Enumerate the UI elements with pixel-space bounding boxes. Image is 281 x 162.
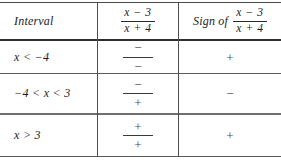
row-result-sign-cell: + <box>179 41 281 73</box>
row-result-sign: − <box>226 87 233 100</box>
header-interval-label: Interval <box>14 14 54 29</box>
header-sign-of-label: Sign of <box>193 14 228 29</box>
row-sign-fraction: − + <box>123 79 153 108</box>
row-sign-denominator: − <box>134 61 141 72</box>
row-factor-signs: + + <box>98 115 178 156</box>
header-sign-numerator: x − 3 <box>234 7 265 19</box>
header-sign-of-group: Sign of x − 3 x + 4 <box>193 7 267 34</box>
row-result-sign-cell: + <box>179 115 281 156</box>
header-sign-of-fraction: x − 3 x + 4 <box>233 7 267 34</box>
header-sign-denominator: x + 4 <box>234 23 265 35</box>
row-sign-fraction-bar <box>123 93 153 94</box>
table-row: −4 < x < 3 <box>0 74 97 113</box>
table-row: x < −4 <box>0 41 97 73</box>
row-sign-numerator: − <box>134 42 141 53</box>
row-result-sign: + <box>226 51 233 64</box>
header-expression-denominator: x + 4 <box>122 23 153 35</box>
row-sign-denominator: + <box>134 97 141 108</box>
table-bottom-border <box>0 156 281 157</box>
header-cell-sign-of: Sign of x − 3 x + 4 <box>179 3 281 39</box>
row-sign-fraction: + + <box>123 121 153 150</box>
row-interval-value: −4 < x < 3 <box>14 86 71 101</box>
row-factor-signs: − − <box>98 41 178 73</box>
header-cell-expression: x − 3 x + 4 <box>98 3 178 39</box>
row-sign-numerator: − <box>134 79 141 90</box>
header-expression-numerator: x − 3 <box>122 7 153 19</box>
row-interval-value: x > 3 <box>14 128 41 143</box>
row-result-sign: + <box>226 129 233 142</box>
row-interval-value: x < −4 <box>14 50 49 65</box>
row-factor-signs: − + <box>98 74 178 113</box>
table-row: x > 3 <box>0 115 97 156</box>
row-result-sign-cell: − <box>179 74 281 113</box>
header-expression-fraction: x − 3 x + 4 <box>121 7 155 34</box>
row-sign-fraction: − − <box>123 42 153 71</box>
header-cell-interval: Interval <box>0 3 97 39</box>
row-sign-numerator: + <box>134 121 141 132</box>
sign-analysis-table: Interval x − 3 x + 4 Sign of x − 3 x + 4… <box>0 0 281 162</box>
row-sign-denominator: + <box>134 139 141 150</box>
row-sign-fraction-bar <box>123 57 153 58</box>
row-sign-fraction-bar <box>123 135 153 136</box>
